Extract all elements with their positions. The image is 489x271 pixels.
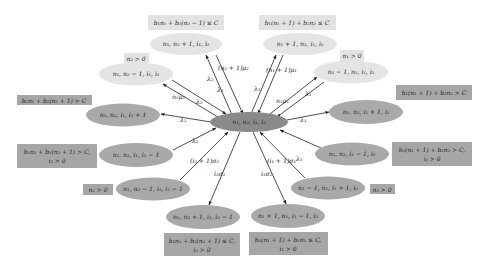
condition-label: n₁ > 0 [343,52,362,59]
rate-label: λ₂ [179,116,187,123]
condition-label: i₁ > 0 [424,155,441,162]
state-label: n₁ + 1, n₂, i₁ − 1, i₂ [258,212,318,219]
state-i1-minus: b₁(n₁ + 1) + b₂n₂ > C, i₁ > 0 n₁, n₂, i₁… [315,142,472,166]
condition-label: n₂ > 0 [127,55,146,62]
edge-to-n2p-i2m [209,132,240,205]
state-n2-minus: n₂ > 0 n₁, n₂ − 1, i₁, i₂ [99,53,173,86]
edge-to-n2m [163,84,218,117]
condition-label: n₂ > 0 [89,186,108,193]
state-label: n₁, n₂ − 1, i₁, i₂ [113,70,160,77]
condition-label: n₁ > 0 [373,186,392,193]
edge-to-n1p-i1m [253,132,286,204]
edge-from-i1m [280,130,321,148]
condition-label: b₁(n₁ + 1) + b₂n₂ ≤ C [265,19,330,26]
rate-label: (i₁ + 1)σ₁ [267,157,296,164]
state-n1-plus-i1-minus: n₁ + 1, n₂, i₁ − 1, i₂ b₁(n₁ + 1) + b₂n₂… [249,204,328,255]
rate-label: λ₂ [195,98,203,105]
condition-label: i₂ > 0 [194,246,211,253]
edge-from-n1p [258,55,283,114]
center-state-label: n₁, n₂, i₁, i₂ [232,118,266,125]
rate-label: (i₂ + 1)σ₂ [190,157,220,164]
condition-label: b₁n₁ + b₂(n₂ + 1) ≤ C, [169,237,235,244]
state-label: n₁ + 1, n₂, i₁, i₂ [277,40,324,47]
state-label: n₁, n₂ + 1, i₁, i₂ − 1 [173,213,233,220]
condition-label: b₁n₁ + b₂(n₂ + 1) > C [22,97,87,104]
state-label: n₁, n₂, i₁ + 1, i₂ [343,108,390,115]
rate-label: n₂μ₂ [172,93,185,101]
condition-label: b₁n₁ + b₂(n₂ + 1) > C, [24,148,90,155]
rate-label: λ₁ [295,155,302,162]
state-label: n₁, n₂ − 1, i₁, i₂ − 1 [123,185,183,192]
rate-label: n₁μ₁ [276,97,289,105]
state-label: n₁ − 1, n₂, i₁, i₂ [328,68,375,75]
condition-label: b₁(n₁ + 1) + b₂n₂ > C [402,89,467,96]
state-label: n₁, n₂, i₁, i₂ + 1 [100,111,147,118]
state-n1-minus-i1-plus: n₁ > 0 n₁ − 1, n₂, i₁ + 1, i₂ [291,177,395,200]
rate-label: λ₁ [304,90,311,97]
rate-label: (n₂ + 1)μ₂ [218,64,249,72]
state-n2-plus: b₁n₁ + b₂(n₂ − 1) ≤ C n₁, n₂ + 1, i₁, i₂ [148,15,224,55]
center-state: n₁, n₂, i₁, i₂ [210,112,288,132]
rate-label: i₁σ₁ [261,170,272,177]
state-label: n₁ − 1, n₂, i₁ + 1, i₂ [298,184,358,191]
state-i1-plus: b₁(n₁ + 1) + b₂n₂ > C n₁, n₂, i₁ + 1, i₂ [329,85,472,124]
state-n1-minus: n₁ > 0 n₁ − 1, n₂, i₁, i₂ [314,50,388,84]
condition-label: i₂ > 0 [49,157,66,164]
state-i2-minus: b₁n₁ + b₂(n₂ + 1) > C, i₂ > 0 n₁, n₂, i₁… [17,143,173,168]
rate-label: λ₂ [216,86,224,93]
state-n2-minus-i2-minus: n₂ > 0 n₁, n₂ − 1, i₁, i₂ − 1 [83,178,190,201]
condition-label: b₁(n₁ + 1) + b₂n₂ > C, [399,146,465,153]
state-transition-diagram: λ₂ λ₂ (n₂ + 1)μ₂ λ₁ (n₁ + 1)μ₁ n₂μ₂ λ₂ n… [0,0,489,271]
state-n1-plus: b₁(n₁ + 1) + b₂n₂ ≤ C n₁ + 1, n₂, i₁, i₂ [259,15,337,55]
rate-label: λ₂ [206,75,214,82]
rate-label: (n₁ + 1)μ₁ [266,66,297,74]
state-label: n₁, n₂ + 1, i₁, i₂ [163,40,210,47]
state-label: n₁, n₂, i₁ − 1, i₂ [329,150,376,157]
edge-to-i1p [287,112,329,120]
state-n2-plus-i2-minus: n₁, n₂ + 1, i₁, i₂ − 1 b₁n₁ + b₂(n₂ + 1)… [164,205,240,256]
state-label: n₁, n₂, i₁, i₂ − 1 [113,151,160,158]
rate-label: λ₁ [299,116,306,123]
state-i2-plus: b₁n₁ + b₂(n₂ + 1) > C n₁, n₂, i₁, i₂ + 1 [17,95,160,127]
rate-label: i₂σ₂ [214,170,226,177]
rate-label: λ₁ [253,85,260,92]
condition-label: b₁n₁ + b₂(n₂ − 1) ≤ C [154,19,219,26]
condition-label: i₁ > 0 [280,245,297,252]
rate-label: λ₂ [191,137,199,144]
condition-label: b₁(n₁ + 1) + b₂n₂ ≤ C, [255,236,321,243]
